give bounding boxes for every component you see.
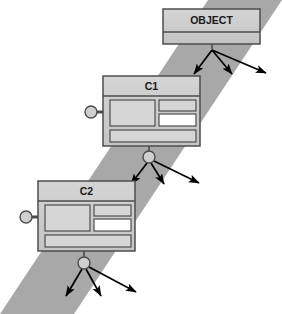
class-name-c1: C1 bbox=[145, 80, 159, 92]
diagram-canvas: OBJECTC1C2 bbox=[0, 0, 282, 314]
interface-lollipop-c1[interactable] bbox=[85, 106, 97, 118]
compartment-c2-bottom-wide[interactable] bbox=[45, 235, 131, 247]
class-box-object[interactable]: OBJECT bbox=[163, 9, 260, 44]
compartment-c1-right-upper[interactable] bbox=[159, 100, 196, 111]
class-box-c2[interactable]: C2 bbox=[20, 181, 135, 251]
compartment-c2-right-upper[interactable] bbox=[94, 205, 131, 216]
class-box-c1[interactable]: C1 bbox=[85, 76, 200, 146]
class-hierarchy-diagram: OBJECTC1C2 bbox=[0, 0, 282, 314]
compartment-c1-left-large[interactable] bbox=[110, 100, 155, 126]
class-name-object: OBJECT bbox=[190, 14, 233, 26]
compartment-c1-right-lower-highlight[interactable] bbox=[159, 114, 196, 126]
compartment-c2-left-large[interactable] bbox=[45, 205, 90, 231]
junction-c2-node bbox=[78, 257, 90, 269]
diagonal-band bbox=[0, 0, 282, 314]
interface-lollipop-c2[interactable] bbox=[20, 211, 32, 223]
junction-c1-node bbox=[143, 151, 155, 163]
compartment-c1-bottom-wide[interactable] bbox=[110, 130, 196, 142]
class-name-c2: C2 bbox=[80, 185, 94, 197]
compartment-c2-right-lower-highlight[interactable] bbox=[94, 219, 131, 231]
